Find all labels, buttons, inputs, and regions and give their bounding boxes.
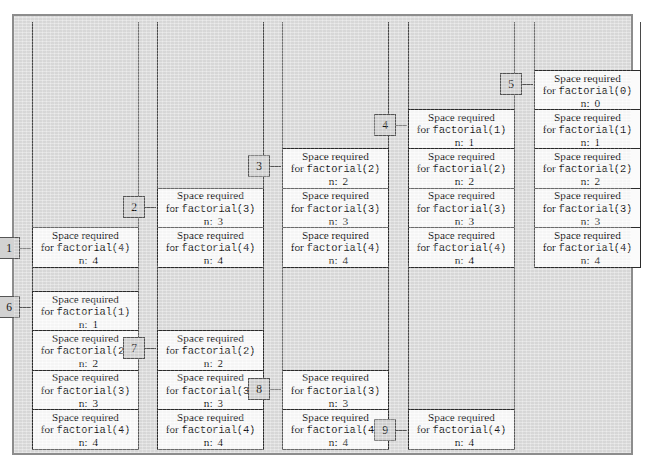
frame-label-call: for factorial(1) — [543, 123, 632, 136]
frame-label-n-value: n:1 — [449, 136, 474, 148]
frame-call-prefix: for — [543, 84, 559, 96]
frame-call-prefix: for — [291, 384, 307, 396]
call-stack-4: Space requiredfor factorial(1)n:1Space r… — [408, 22, 515, 268]
stack-frame: Space requiredfor factorial(4)n:4 — [408, 227, 515, 268]
frame-n-prefix: n: — [79, 397, 88, 409]
frame-n-prefix: n: — [455, 136, 464, 148]
frame-n-prefix: n: — [79, 436, 88, 448]
frame-n-number: 3 — [218, 397, 224, 409]
frame-call-prefix: for — [417, 241, 433, 253]
step-badge-8: 8 — [248, 378, 270, 400]
frame-label-n-value: n:4 — [449, 436, 474, 448]
frame-n-number: 4 — [595, 254, 601, 266]
frame-n-prefix: n: — [329, 215, 338, 227]
frame-call-prefix: for — [166, 202, 182, 214]
frame-call-prefix: for — [291, 162, 307, 174]
frame-n-prefix: n: — [581, 215, 590, 227]
frame-label-call: for factorial(4) — [417, 241, 506, 254]
stack-frame: Space requiredfor factorial(3)n:3 — [282, 188, 389, 229]
frame-label-space-required: Space required — [52, 332, 119, 344]
frame-n-number: 3 — [93, 397, 99, 409]
frame-label-call: for factorial(2) — [417, 162, 506, 175]
frame-n-prefix: n: — [581, 254, 590, 266]
diagram-panel: Space requiredfor factorial(4)n:41Space … — [12, 14, 633, 455]
step-badge-4: 4 — [374, 114, 396, 136]
frame-label-space-required: Space required — [52, 371, 119, 383]
call-stack-7: Space requiredfor factorial(2)n:2Space r… — [157, 264, 264, 450]
step-badge-1: 1 — [0, 237, 20, 259]
frame-label-call: for factorial(4) — [417, 423, 506, 436]
frame-call-expression: factorial(3) — [559, 203, 633, 215]
frame-label-space-required: Space required — [554, 72, 621, 84]
stack-frame: Space requiredfor factorial(4)n:4 — [157, 227, 264, 268]
frame-call-prefix: for — [41, 305, 57, 317]
frame-label-call: for factorial(0) — [543, 84, 632, 97]
stack-frame: Space requiredfor factorial(1)n:1 — [32, 291, 139, 332]
frame-label-call: for factorial(3) — [291, 202, 380, 215]
frame-label-space-required: Space required — [428, 150, 495, 162]
frame-call-prefix: for — [41, 384, 57, 396]
stack-frames: Space requiredfor factorial(4)n:4 — [408, 411, 515, 450]
stack-frames: Space requiredfor factorial(2)n:2Space r… — [282, 150, 389, 268]
frame-call-prefix: for — [417, 162, 433, 174]
frame-call-expression: factorial(3) — [307, 203, 381, 215]
frame-label-call: for factorial(2) — [166, 344, 255, 357]
frame-call-prefix: for — [417, 202, 433, 214]
frame-n-number: 4 — [93, 436, 99, 448]
frame-call-expression: factorial(1) — [559, 124, 633, 136]
frame-label-n-value: n:4 — [323, 436, 348, 448]
frame-label-space-required: Space required — [554, 189, 621, 201]
frame-label-space-required: Space required — [52, 411, 119, 423]
frame-label-n-value: n:3 — [323, 397, 348, 409]
frame-n-number: 2 — [93, 357, 99, 369]
frame-label-space-required: Space required — [177, 229, 244, 241]
frame-n-number: 2 — [595, 175, 601, 187]
frame-call-expression: factorial(2) — [182, 345, 256, 357]
frame-n-number: 3 — [595, 215, 601, 227]
frame-call-expression: factorial(4) — [57, 424, 131, 436]
frame-call-prefix: for — [543, 162, 559, 174]
stack-frame: Space requiredfor factorial(3)n:3 — [157, 188, 264, 229]
frame-label-space-required: Space required — [428, 229, 495, 241]
call-stack-2: Space requiredfor factorial(3)n:3Space r… — [157, 22, 264, 268]
stack-frame: Space requiredfor factorial(4)n:4 — [32, 227, 139, 268]
frame-label-n-value: n:3 — [198, 215, 223, 227]
frame-call-expression: factorial(1) — [57, 306, 131, 318]
frame-label-call: for factorial(3) — [166, 384, 255, 397]
frame-n-prefix: n: — [581, 136, 590, 148]
frame-label-n-value: n:4 — [73, 436, 98, 448]
frame-n-prefix: n: — [455, 436, 464, 448]
call-stack-9: Space requiredfor factorial(4)n:49 — [408, 264, 515, 450]
stack-frame: Space requiredfor factorial(1)n:1 — [534, 109, 641, 150]
frame-n-prefix: n: — [204, 357, 213, 369]
frame-label-call: for factorial(4) — [291, 423, 380, 436]
stack-frame: Space requiredfor factorial(2)n:2 — [534, 148, 641, 189]
frame-label-space-required: Space required — [302, 150, 369, 162]
frame-label-n-value: n:2 — [323, 175, 348, 187]
frame-n-prefix: n: — [79, 318, 88, 330]
stack-frame: Space requiredfor factorial(3)n:3 — [534, 188, 641, 229]
stack-frames: Space requiredfor factorial(3)n:3Space r… — [157, 189, 264, 268]
frame-label-call: for factorial(3) — [166, 202, 255, 215]
frame-n-number: 4 — [343, 436, 349, 448]
frame-call-prefix: for — [543, 123, 559, 135]
frame-label-space-required: Space required — [554, 229, 621, 241]
frame-n-prefix: n: — [329, 175, 338, 187]
frame-call-prefix: for — [543, 202, 559, 214]
frame-label-call: for factorial(4) — [291, 241, 380, 254]
frame-call-expression: factorial(1) — [433, 124, 507, 136]
frame-call-expression: factorial(4) — [307, 242, 381, 254]
frame-call-expression: factorial(4) — [559, 242, 633, 254]
frame-call-expression: factorial(2) — [559, 163, 633, 175]
frame-n-number: 4 — [218, 436, 224, 448]
frame-label-n-value: n:2 — [73, 357, 98, 369]
stack-frame: Space requiredfor factorial(4)n:4 — [408, 409, 515, 450]
frame-call-prefix: for — [166, 344, 182, 356]
frame-label-space-required: Space required — [554, 150, 621, 162]
frame-label-space-required: Space required — [177, 332, 244, 344]
frame-call-expression: factorial(3) — [307, 385, 381, 397]
frame-n-prefix: n: — [329, 397, 338, 409]
frame-call-expression: factorial(2) — [307, 163, 381, 175]
frame-call-prefix: for — [291, 423, 307, 435]
frame-n-number: 3 — [343, 397, 349, 409]
